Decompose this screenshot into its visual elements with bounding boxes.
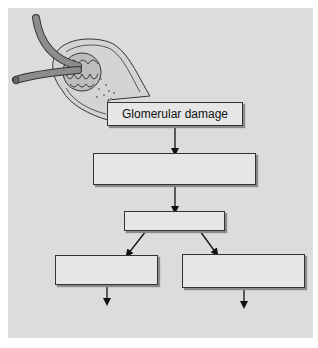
box-step-2 bbox=[93, 153, 256, 185]
arrow-right bbox=[200, 231, 216, 253]
arrow-left bbox=[128, 231, 146, 254]
box-glomerular-damage: Glomerular damage bbox=[107, 102, 243, 126]
box-branch-right bbox=[182, 254, 305, 288]
box-branch-left bbox=[55, 255, 158, 285]
box-label: Glomerular damage bbox=[122, 107, 228, 121]
box-step-3 bbox=[124, 211, 225, 231]
